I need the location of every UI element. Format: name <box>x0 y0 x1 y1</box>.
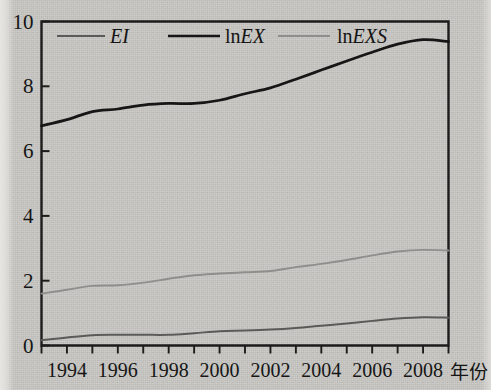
legend-label-lnex: lnEX <box>225 25 266 47</box>
x-tick-label: 2006 <box>352 359 392 381</box>
x-tick-label: 2002 <box>250 359 290 381</box>
x-tick-label: 2008 <box>403 359 443 381</box>
x-tick-label: 2000 <box>200 359 240 381</box>
figure-canvas: 0246810 19941996199820002002200420062008… <box>0 0 491 390</box>
plot-frame <box>42 22 449 346</box>
series-layer <box>42 40 449 341</box>
legend-label-ei: EI <box>109 25 130 47</box>
y-tick-label: 8 <box>23 74 34 98</box>
x-tick-label: 1994 <box>47 359 87 381</box>
x-axis: 19941996199820002002200420062008 <box>42 346 449 381</box>
y-tick-label: 4 <box>23 204 34 228</box>
x-tick-label: 1998 <box>149 359 189 381</box>
y-tick-label: 10 <box>13 10 34 34</box>
x-tick-label: 1996 <box>98 359 138 381</box>
legend-label-lnexs: lnEXS <box>337 25 387 47</box>
series-line-ei <box>42 317 449 340</box>
x-tick-label: 2004 <box>301 359 341 381</box>
series-line-lnex <box>42 40 449 126</box>
chart-legend: EIlnEXlnEXS <box>57 25 387 47</box>
y-tick-label: 6 <box>23 139 34 163</box>
y-axis: 0246810 <box>13 10 50 358</box>
y-tick-label: 0 <box>23 334 34 358</box>
x-axis-title: 年份 <box>450 362 488 383</box>
y-tick-label: 2 <box>23 269 34 293</box>
series-line-lnexs <box>42 250 449 294</box>
line-chart: 0246810 19941996199820002002200420062008… <box>0 0 491 390</box>
